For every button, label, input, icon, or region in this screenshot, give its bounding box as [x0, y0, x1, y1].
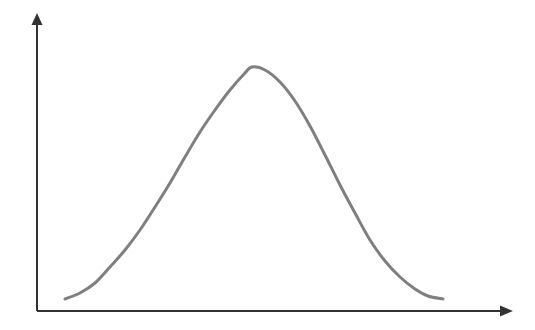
- bell-curve-figure: [0, 0, 535, 330]
- figure-canvas: [0, 0, 535, 330]
- figure-background: [0, 0, 535, 330]
